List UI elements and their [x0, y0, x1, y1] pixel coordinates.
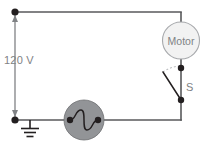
- voltage-arrow-head-up: [12, 15, 18, 22]
- switch-top-node: [178, 65, 184, 71]
- circuit-schematic-canvas: Motor S: [0, 0, 205, 141]
- voltage-label: 120 V: [4, 54, 34, 66]
- switch-arc: [163, 66, 180, 72]
- source-right-node: [95, 117, 101, 123]
- switch-label: S: [186, 81, 193, 93]
- motor[interactable]: Motor: [163, 22, 200, 59]
- source-left-node: [67, 117, 73, 123]
- switch[interactable]: S: [163, 66, 193, 100]
- top-left-node: [11, 8, 18, 15]
- switch-blade[interactable]: [163, 72, 181, 100]
- ground: [21, 120, 39, 137]
- bottom-left-node: [11, 116, 18, 123]
- switch-bottom-node: [178, 97, 184, 103]
- wire-group: [15, 12, 181, 120]
- voltage-arrow-head-down: [12, 110, 18, 117]
- voltage-arrow: [12, 14, 18, 118]
- circuit-diagram: Motor S: [0, 0, 205, 141]
- motor-label: Motor: [168, 35, 195, 47]
